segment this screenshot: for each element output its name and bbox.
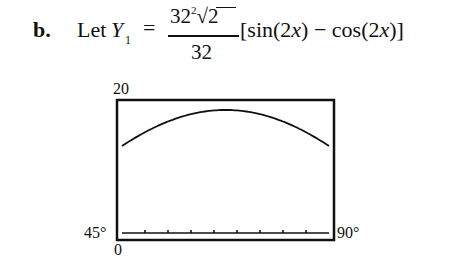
graph-canvas bbox=[0, 0, 458, 277]
graph-frame bbox=[117, 100, 334, 240]
function-curve bbox=[122, 110, 329, 146]
